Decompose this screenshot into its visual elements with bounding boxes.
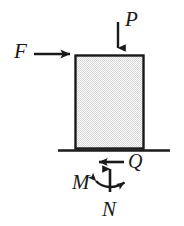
diagram-canvas: P F Q N M (0, 0, 184, 226)
label-n: N (101, 197, 117, 221)
label-m: M (71, 170, 91, 194)
label-f: F (13, 39, 27, 63)
label-q: Q (128, 150, 143, 172)
free-body-diagram-figure: P F Q N M (0, 0, 184, 226)
block-outline (76, 56, 144, 149)
column-block (76, 56, 144, 149)
label-p: P (124, 7, 138, 31)
